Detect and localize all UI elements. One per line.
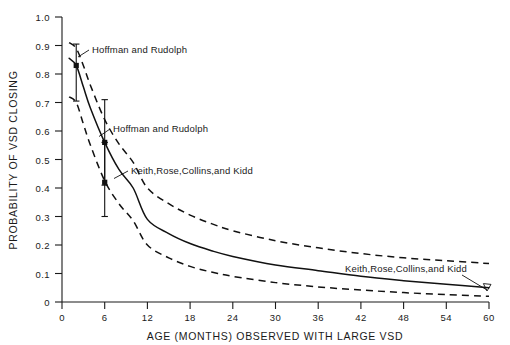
leader-hoffman-1: [78, 50, 89, 57]
upper-confidence-curve: [69, 43, 489, 264]
annotation-keith-right: Keith,Rose,Collins,and Kidd: [345, 263, 467, 274]
chart-figure: 1.0 0.9 0.8 0.7 0.6 0.5 0.4 0.3 0.2 0.1 …: [0, 0, 510, 345]
x-tick-label-36: 36: [313, 312, 324, 323]
x-axis-tick-labels: 0 6 12 18 24 30 36 42 48 54 60: [59, 312, 495, 323]
x-axis-title: AGE (MONTHS) OBSERVED WITH LARGE VSD: [147, 330, 404, 342]
y-tick-label-0.8: 0.8: [36, 69, 50, 80]
x-tick-label-42: 42: [355, 312, 366, 323]
data-point-with-error-bar: [102, 142, 108, 216]
data-point-marker: [102, 180, 107, 185]
annotation-hoffman-lower: Hoffman and Rudolph: [113, 123, 208, 134]
y-axis-title: PROBABILITY OF VSD CLOSING: [7, 70, 19, 249]
y-tick-label-0.3: 0.3: [36, 212, 50, 223]
leader-keith-2: [462, 275, 487, 290]
x-tick-label-0: 0: [59, 312, 65, 323]
x-tick-label-6: 6: [102, 312, 108, 323]
data-point-marker: [74, 63, 79, 68]
y-axis-tick-labels: 1.0 0.9 0.8 0.7 0.6 0.5 0.4 0.3 0.2 0.1 …: [36, 12, 50, 308]
y-tick-label-1.0: 1.0: [36, 12, 50, 23]
x-tick-label-18: 18: [184, 312, 195, 323]
x-axis-ticks: [62, 302, 489, 309]
annotation-keith-left: Keith,Rose,Collins,and Kidd: [131, 165, 253, 176]
annotation-hoffman-upper: Hoffman and Rudolph: [92, 44, 187, 55]
probability-of-vsd-closing-chart: 1.0 0.9 0.8 0.7 0.6 0.5 0.4 0.3 0.2 0.1 …: [0, 0, 510, 345]
x-tick-label-60: 60: [483, 312, 494, 323]
y-tick-label-0: 0: [44, 297, 50, 308]
x-tick-label-48: 48: [398, 312, 409, 323]
y-tick-label-0.6: 0.6: [36, 126, 50, 137]
x-tick-label-30: 30: [270, 312, 281, 323]
y-tick-label-0.5: 0.5: [36, 155, 50, 166]
y-tick-label-0.2: 0.2: [36, 240, 50, 251]
y-tick-label-0.4: 0.4: [36, 183, 50, 194]
x-tick-label-54: 54: [441, 312, 452, 323]
y-tick-label-0.9: 0.9: [36, 41, 50, 52]
x-tick-label-12: 12: [142, 312, 153, 323]
annotation-labels: Hoffman and Rudolph Hoffman and Rudolph …: [92, 44, 467, 274]
x-tick-label-24: 24: [227, 312, 238, 323]
y-tick-label-0.7: 0.7: [36, 98, 50, 109]
y-axis-ticks: [55, 17, 62, 302]
y-tick-label-0.1: 0.1: [36, 269, 50, 280]
